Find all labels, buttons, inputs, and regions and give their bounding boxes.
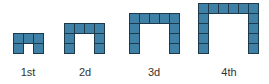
figure-label: 3d xyxy=(134,66,174,78)
square-tile xyxy=(13,43,24,54)
figure-1st xyxy=(13,33,43,53)
figure-label: 4th xyxy=(209,66,249,78)
figure-4th xyxy=(198,3,258,53)
figure-3d xyxy=(129,13,179,53)
square-tile xyxy=(64,43,75,54)
square-tile xyxy=(94,43,105,54)
square-tile xyxy=(129,43,140,54)
figure-label: 2d xyxy=(65,66,105,78)
square-tile xyxy=(198,43,209,54)
square-tile xyxy=(169,43,180,54)
square-tile xyxy=(33,43,44,54)
square-tile xyxy=(248,43,259,54)
figure-2d xyxy=(64,23,104,53)
figure-label: 1st xyxy=(8,66,48,78)
